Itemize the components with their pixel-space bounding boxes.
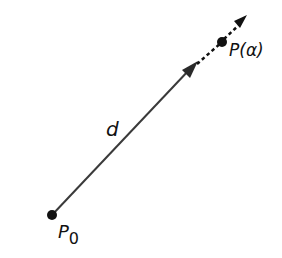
line-parametric-diagram: P0 d P(α) bbox=[0, 0, 282, 258]
extension-dotted-line-2 bbox=[224, 24, 240, 39]
direction-vector-line bbox=[52, 69, 190, 215]
point-p-alpha-dot bbox=[217, 37, 227, 47]
label-direction-d: d bbox=[106, 117, 119, 141]
label-p-alpha: P(α) bbox=[229, 40, 264, 60]
label-p0: P0 bbox=[58, 221, 79, 248]
extension-arrowhead-icon bbox=[234, 15, 247, 28]
point-p0-dot bbox=[47, 210, 57, 220]
